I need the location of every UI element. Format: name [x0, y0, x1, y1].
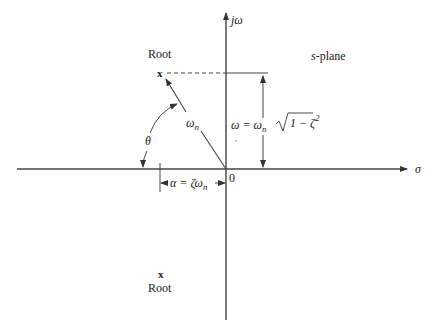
omega-n-label: ωn [186, 116, 199, 132]
theta-arc-upper [150, 104, 177, 133]
svg-text:ω = ωn: ω = ωn [231, 118, 267, 134]
omega-n-vector-upper [166, 79, 186, 112]
upper-root-marker: x [157, 67, 163, 79]
alpha-formula: α = ζωn [170, 176, 208, 192]
speck [235, 140, 236, 141]
lower-root-marker: x [158, 268, 164, 280]
imaginary-axis-label: jω [229, 13, 243, 27]
damped-frequency-formula: ω = ωn 1 − ζ2 [231, 113, 320, 134]
svg-text:1 − ζ2: 1 − ζ2 [290, 113, 320, 130]
plane-title: s-plane [311, 49, 346, 63]
theta-label: θ [145, 134, 151, 148]
real-axis-label: σ [415, 162, 422, 176]
theta-arc-lower [143, 151, 147, 167]
upper-root-label: Root [148, 47, 172, 61]
origin-label: 0 [229, 171, 235, 185]
s-plane-diagram: jω σ 0 s-plane s-plane Root x ω = ωn 1 −… [0, 0, 435, 336]
omega-n-vector-lower [201, 131, 226, 169]
lower-root-label: Root [148, 281, 172, 295]
